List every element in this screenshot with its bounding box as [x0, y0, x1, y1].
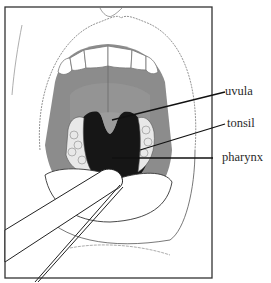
chin-line	[70, 245, 170, 255]
cheek-line-left	[12, 25, 22, 95]
philtrum	[100, 8, 122, 17]
throat-illustration	[0, 0, 271, 283]
label-tonsil: tonsil	[227, 117, 255, 130]
label-uvula: uvula	[225, 85, 253, 98]
label-pharynx: pharynx	[222, 151, 263, 164]
